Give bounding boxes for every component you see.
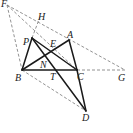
- segment-FB: [7, 5, 22, 70]
- label-G: G: [118, 72, 125, 83]
- label-C: C: [77, 71, 84, 82]
- label-F: F: [0, 0, 8, 9]
- label-N: N: [39, 59, 48, 70]
- label-E: E: [49, 38, 56, 49]
- label-P: P: [22, 36, 29, 47]
- geometry-diagram: F H P A E N B T C G D: [0, 0, 133, 133]
- label-H: H: [37, 11, 46, 22]
- label-T: T: [50, 71, 57, 82]
- label-A: A: [66, 29, 74, 40]
- label-B: B: [15, 72, 21, 83]
- label-D: D: [81, 112, 90, 123]
